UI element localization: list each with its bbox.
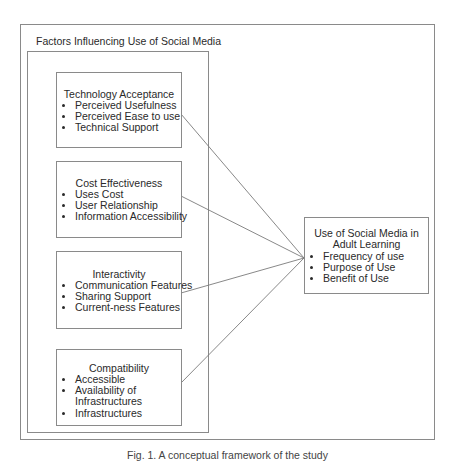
factor-item-label: Availability of Infrastructures [75, 384, 142, 407]
bullet-icon [62, 378, 65, 381]
factor-item-label: Current-ness Features [75, 301, 180, 313]
factor-item-label: Sharing Support [75, 290, 151, 302]
outcome-item: Benefit of Use [305, 273, 428, 284]
outcome-item-label: Benefit of Use [323, 272, 389, 284]
outcome-item-label: Purpose of Use [323, 261, 395, 273]
factor-item-label: Technical Support [75, 121, 158, 133]
factor-item-list: Accessible Availability of Infrastructur… [57, 374, 181, 419]
factor-item-list: Communication Features Sharing Support C… [57, 280, 181, 314]
bullet-icon [62, 126, 65, 129]
factor-item-label: Perceived Usefulness [75, 99, 177, 111]
factor-item: Information Accessibility [57, 211, 181, 222]
bullet-icon [62, 115, 65, 118]
factor-box-interactivity: Interactivity Communication Features Sha… [56, 251, 182, 329]
factor-item-list: Uses Cost User Relationship Information … [57, 189, 181, 223]
bullet-icon [310, 255, 313, 258]
factors-group-title: Factors Influencing Use of Social Media [36, 35, 221, 47]
factor-item: Availability of Infrastructures [57, 385, 160, 407]
bullet-icon [310, 277, 313, 280]
factor-item-label: Perceived Ease to use [75, 110, 180, 122]
factor-box-technology-acceptance: Technology Acceptance Perceived Usefulne… [56, 72, 182, 148]
factor-item: Technical Support [57, 122, 181, 133]
factor-item-label: Communication Features [75, 279, 192, 291]
factor-item-label: Accessible [75, 373, 125, 385]
bullet-icon [62, 389, 65, 392]
bullet-icon [62, 284, 65, 287]
bullet-icon [62, 204, 65, 207]
factor-box-cost-effectiveness: Cost Effectiveness Uses Cost User Relati… [56, 161, 182, 238]
bullet-icon [310, 266, 313, 269]
factor-item: Current-ness Features [57, 302, 181, 313]
figure-caption: Fig. 1. A conceptual framework of the st… [0, 449, 455, 461]
outcome-item-label: Frequency of use [323, 250, 404, 262]
factor-item-label: User Relationship [75, 199, 158, 211]
factor-box-compatibility: Compatibility Accessible Availability of… [56, 349, 182, 426]
outcome-box-use-of-social-media: Use of Social Media in Adult Learning Fr… [304, 217, 429, 294]
factor-item-label: Infrastructures [75, 407, 142, 419]
factor-item-label: Information Accessibility [75, 210, 187, 222]
bullet-icon [62, 306, 65, 309]
factor-item-list: Perceived Usefulness Perceived Ease to u… [57, 100, 181, 134]
factor-item-label: Uses Cost [75, 188, 123, 200]
bullet-icon [62, 412, 65, 415]
outcome-item-list: Frequency of use Purpose of Use Benefit … [305, 251, 428, 285]
bullet-icon [62, 193, 65, 196]
bullet-icon [62, 295, 65, 298]
bullet-icon [62, 215, 65, 218]
outcome-title: Use of Social Media in Adult Learning [305, 228, 428, 250]
bullet-icon [62, 104, 65, 107]
factor-item: Infrastructures [57, 408, 181, 419]
